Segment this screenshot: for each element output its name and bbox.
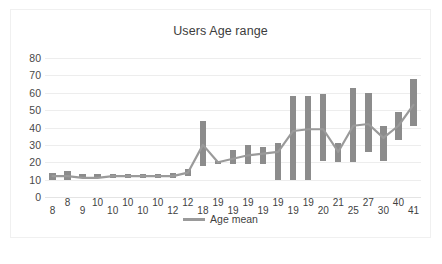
plot-area <box>45 58 421 197</box>
y-axis-tick-label: 10 <box>15 175 41 185</box>
x-axis-tick-label: 10 <box>150 198 165 208</box>
chart-legend: Age mean <box>11 213 430 225</box>
x-axis-tick-label: 40 <box>391 198 406 208</box>
x-axis-tick-label: 10 <box>120 198 135 208</box>
x-axis-tick-label: 10 <box>90 198 105 208</box>
x-axis-tick-label: 19 <box>301 198 316 208</box>
y-axis-tick-label: 70 <box>15 70 41 80</box>
x-axis-tick-label: 8 <box>60 198 75 208</box>
legend-line-icon <box>183 218 205 221</box>
x-axis-tick-label: 19 <box>210 198 225 208</box>
chart-title: Users Age range <box>11 24 430 38</box>
y-axis-tick-label: 50 <box>15 105 41 115</box>
x-axis-tick-label: 21 <box>331 198 346 208</box>
y-axis-tick-label: 60 <box>15 88 41 98</box>
x-axis-tick-label: 19 <box>271 198 286 208</box>
y-axis-tick-label: 0 <box>15 192 41 202</box>
y-axis-tick-label: 40 <box>15 123 41 133</box>
line-series <box>45 58 421 197</box>
mean-line <box>53 105 414 178</box>
chart-container: Users Age range 01020304050607080 889101… <box>10 9 431 238</box>
x-axis-tick-label: 27 <box>361 198 376 208</box>
y-axis-tick-label: 30 <box>15 140 41 150</box>
y-axis-tick-label: 20 <box>15 157 41 167</box>
x-axis-tick-label: 19 <box>241 198 256 208</box>
x-axis-tick-label: 12 <box>180 198 195 208</box>
legend-label: Age mean <box>210 213 258 225</box>
y-axis-tick-label: 80 <box>15 53 41 63</box>
